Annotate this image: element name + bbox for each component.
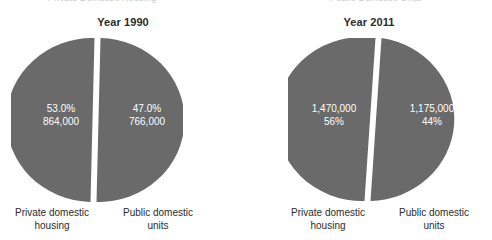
pie-title-right: Year 2011 bbox=[246, 16, 492, 28]
category-line2: units bbox=[110, 219, 206, 232]
pie-slice-left-public[interactable] bbox=[97, 38, 184, 202]
pie-panel-year-1990: Year 1990 53.0% 864,000 47.0% 766,000 Pr… bbox=[0, 0, 246, 240]
pie-graphic-right bbox=[288, 38, 460, 202]
category-line2: housing bbox=[4, 219, 100, 232]
pie-category-label-right-public: Public domestic units bbox=[386, 206, 482, 232]
pie-slice-right-public[interactable] bbox=[371, 38, 455, 201]
pie-chart-left bbox=[11, 38, 183, 202]
pie-chart-right bbox=[288, 38, 460, 202]
category-line2: units bbox=[386, 219, 482, 232]
category-line1: Public domestic bbox=[110, 206, 206, 219]
category-line1: Private domestic bbox=[280, 206, 376, 219]
pie-graphic-left bbox=[11, 38, 183, 202]
pie-category-label-left-public: Public domestic units bbox=[110, 206, 206, 232]
pie-slice-right-private[interactable] bbox=[288, 38, 376, 201]
category-line2: housing bbox=[280, 219, 376, 232]
pie-slice-left-private[interactable] bbox=[11, 38, 94, 202]
category-line1: Public domestic bbox=[386, 206, 482, 219]
pie-category-label-right-private: Private domestic housing bbox=[280, 206, 376, 232]
pie-category-label-left-private: Private domestic housing bbox=[4, 206, 100, 232]
pie-title-left: Year 1990 bbox=[0, 16, 246, 28]
category-line1: Private domestic bbox=[4, 206, 100, 219]
pie-panel-year-2011: Year 2011 1,470,000 56% 1,175,000 44% Pr… bbox=[246, 0, 492, 240]
